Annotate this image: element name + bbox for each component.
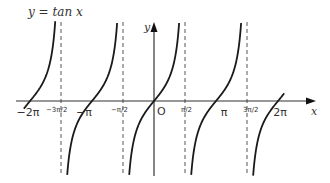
- x-tick-label: −π/2: [111, 106, 128, 114]
- origin-label: O: [157, 105, 166, 118]
- graph-title: y = tan x: [27, 5, 83, 19]
- x-tick-label: −3π/2: [46, 106, 67, 114]
- tan-curve-branch: [191, 23, 241, 175]
- x-tick-label: 3π/2: [243, 106, 258, 114]
- tan-curve-branch: [24, 21, 55, 109]
- y-axis-arrow: [151, 22, 158, 32]
- x-tick-label: π: [221, 106, 228, 119]
- y-axis-label: y: [143, 21, 151, 34]
- x-tick-label: 2π: [273, 106, 287, 119]
- x-tick-label: π/2: [181, 106, 192, 114]
- x-axis-arrow: [306, 98, 316, 105]
- tan-curve-branch: [67, 23, 117, 175]
- tan-graph: y = tan x x y O −2π−3π/2−π−π/2π/2π3π/22π: [0, 0, 330, 183]
- x-axis-label: x: [311, 105, 318, 118]
- x-tick-label: −2π: [17, 106, 40, 119]
- x-tick-label: −π: [76, 106, 92, 119]
